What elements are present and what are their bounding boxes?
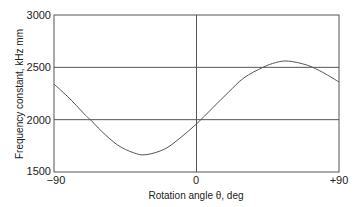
y-tick-2500: 2500 xyxy=(27,61,51,73)
y-axis-label: Frequency constant, kHz mm xyxy=(14,29,25,159)
gridlines xyxy=(54,15,339,172)
x-tick-0: 0 xyxy=(193,174,199,186)
y-tick-3000: 3000 xyxy=(27,9,51,21)
y-tick-2000: 2000 xyxy=(27,114,51,126)
x-tick-pos90: +90 xyxy=(330,174,349,186)
x-axis-label: Rotation angle θ, deg xyxy=(148,190,243,201)
y-tick-labels: 3000 2500 2000 1500 xyxy=(27,9,51,177)
x-tick-neg90: −90 xyxy=(47,174,66,186)
chart: 3000 2500 2000 1500 −90 0 +90 Rotation a… xyxy=(0,0,361,207)
x-tick-labels: −90 0 +90 xyxy=(47,174,349,186)
